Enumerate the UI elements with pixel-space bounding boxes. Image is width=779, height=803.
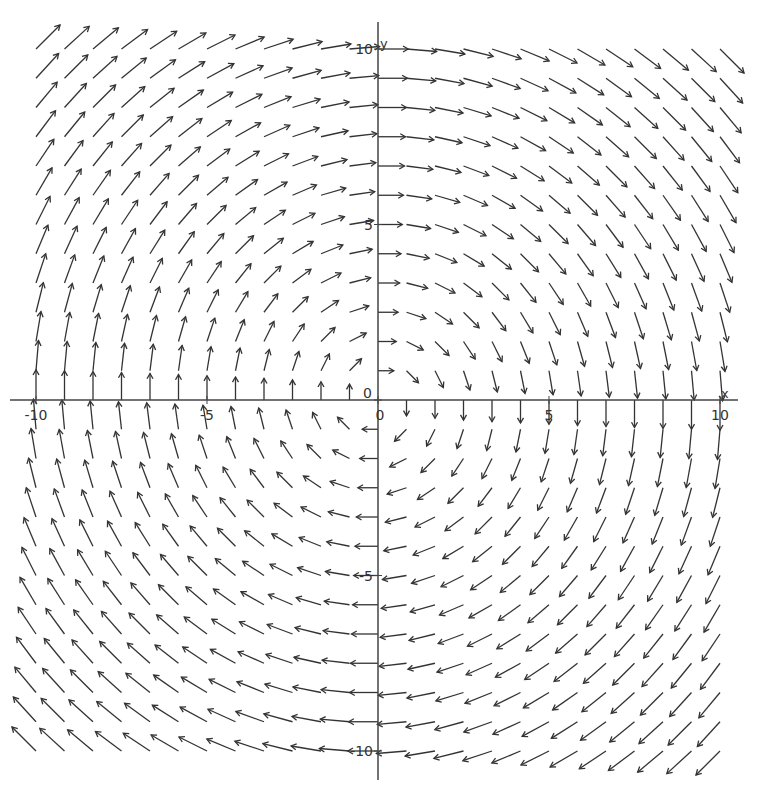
field-arrow-shaft [65,26,90,49]
field-arrow-shaft [245,531,264,546]
field-arrow-shaft [715,459,720,489]
field-arrow-shaft [692,78,715,101]
field-arrow-shaft [717,429,720,459]
field-arrow-shaft [494,693,520,706]
field-arrow-shaft [236,180,258,196]
field-arrow-shaft [150,145,171,166]
field-arrow-shaft [650,546,663,572]
field-arrow-shaft [405,751,435,756]
field-arrow-shaft [93,227,106,253]
field-arrow-shaft [616,605,634,628]
field-arrow-shaft [236,264,251,283]
field-arrow-shaft [188,556,207,575]
field-arrow-shaft [93,199,108,225]
field-arrow-shaft [443,546,464,558]
field-arrow-shaft [646,605,663,630]
field-arrow-shaft [267,625,292,634]
field-arrow-shaft [122,29,148,49]
field-arrow-shaft [93,85,116,108]
field-arrow-shaft [40,728,65,751]
field-arrow-shaft [549,283,563,304]
field-arrow-shaft [78,550,93,576]
field-arrow-shaft [652,517,663,544]
field-arrow-shaft [12,727,36,751]
field-arrow-shaft [492,225,513,239]
field-arrow-shaft [26,488,36,517]
field-arrow-shaft [421,459,435,473]
field-arrow-shaft [452,459,464,477]
field-arrow-shaft [236,66,264,79]
field-arrow-shaft [591,546,606,570]
field-arrow-shaft [696,751,720,775]
field-arrow-shaft [530,576,549,595]
field-arrow-shaft [582,693,606,712]
field-arrow-shaft [264,210,285,224]
field-arrow-shaft [179,147,201,166]
field-arrow-shaft [36,312,41,342]
field-arrow-shaft [165,494,178,517]
field-arrow-shaft [475,517,492,534]
field-arrow-shaft [250,469,264,487]
field-arrow-shaft [236,208,256,225]
field-arrow-shaft [495,663,520,677]
field-arrow-shaft [638,751,663,772]
field-arrow-shaft [606,283,618,308]
field-arrow-shaft [492,195,515,208]
field-arrow-shaft [663,342,669,370]
field-arrow-shaft [523,693,549,708]
field-arrow-shaft [720,78,743,103]
field-arrow-shaft [562,546,578,568]
y-tick-label: -5 [359,568,373,584]
field-arrow-shaft [264,238,283,253]
field-arrow-shaft [22,547,36,575]
field-arrow-shaft [65,169,82,195]
field-arrow-shaft [235,741,264,751]
field-arrow-shaft [606,108,630,127]
field-arrow-shaft [549,78,576,93]
field-arrow-shaft [469,605,492,618]
field-arrow-shaft [321,102,349,108]
field-arrow-shaft [581,722,606,741]
field-arrow-shaft [557,605,577,625]
field-arrow-shaft [689,429,692,458]
field-arrow-shaft [31,429,36,459]
field-arrow-shaft [236,236,254,254]
field-arrow-shaft [554,663,577,681]
field-arrow-shaft [611,693,634,714]
field-arrow-shaft [692,195,709,221]
field-arrow-shaft [150,202,167,225]
field-arrow-shaft [445,517,463,531]
field-arrow-shaft [505,517,520,536]
field-arrow-shaft [93,170,110,195]
field-arrow-shaft [65,342,68,371]
field-arrow-shaft [207,149,230,166]
field-arrow-shaft [473,546,492,561]
field-arrow-shaft [606,137,629,157]
field-arrow-shaft [699,693,720,718]
origin-label-y: 0 [363,385,372,401]
field-arrow-shaft [535,517,549,538]
field-arrow-shaft [559,576,577,597]
field-arrow-shaft [670,693,692,717]
field-arrow-shaft [350,76,379,79]
field-arrow-shaft [417,488,435,500]
field-arrow-shaft [407,693,435,699]
field-arrow-shaft [36,168,52,195]
field-arrow-shaft [720,108,741,133]
field-arrow-shaft [406,722,435,727]
field-arrow-shaft [150,287,159,312]
field-arrow-shaft [521,254,539,272]
field-arrow-shaft [93,113,114,136]
field-arrow-shaft [212,619,236,634]
field-arrow-shaft [181,677,207,692]
field-arrow-shaft [179,737,207,751]
field-arrow-shaft [578,312,588,336]
field-arrow-shaft [160,554,178,575]
field-arrow-shaft [521,137,546,151]
field-arrow-shaft [277,472,293,488]
field-arrow-shaft [223,467,235,488]
field-arrow-shaft [76,580,93,605]
field-arrow-shaft [307,445,321,459]
field-arrow-shaft [236,292,248,313]
field-arrow-shaft [46,609,65,634]
